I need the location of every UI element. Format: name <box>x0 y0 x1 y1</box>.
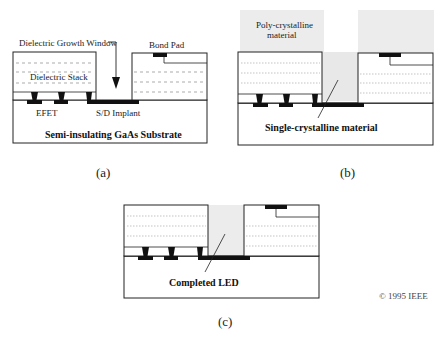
panel-b: Poly-crystalline material Single-crystal… <box>238 10 434 180</box>
label-dielectric-stack: Dielectric Stack <box>30 72 88 82</box>
panel-c: Completed LED (c) <box>124 205 319 329</box>
caption-c: (c) <box>218 314 232 329</box>
right-dielectric-stack <box>132 53 207 100</box>
poly-crystalline-right <box>358 10 434 53</box>
caption-a: (a) <box>96 165 110 180</box>
label-bond-pad: Bond Pad <box>149 40 185 50</box>
label-poly-1: Poly-crystalline <box>256 20 313 30</box>
label-growth-window: Dielectric Growth Window <box>19 38 117 48</box>
fabrication-diagram: Dielectric Growth Window Bond Pad Dielec… <box>0 0 441 339</box>
copyright: © 1995 IEEE <box>379 291 428 301</box>
label-efet: EFET <box>36 108 58 118</box>
label-completed-led: Completed LED <box>169 277 239 288</box>
sd-implant <box>87 100 139 104</box>
label-substrate: Semi-insulating GaAs Substrate <box>45 129 182 140</box>
label-single-crystalline: Single-crystalline material <box>265 122 378 133</box>
single-crystalline-window <box>322 52 360 101</box>
panel-a: Dielectric Growth Window Bond Pad Dielec… <box>13 38 207 180</box>
label-sd-implant: S/D Implant <box>96 108 141 118</box>
bond-pad <box>153 53 167 57</box>
label-poly-2: material <box>267 30 297 40</box>
caption-b: (b) <box>340 165 355 180</box>
